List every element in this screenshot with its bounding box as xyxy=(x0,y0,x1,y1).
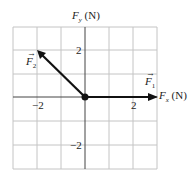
y-axis-label: Fy (N) xyxy=(72,9,100,24)
vector-arrow-icon: → xyxy=(146,68,155,78)
f2-label: F2 → xyxy=(26,55,36,70)
f1-label: F1 → xyxy=(145,75,155,90)
y-tick-neg2: −2 xyxy=(70,139,82,151)
x-tick-2: 2 xyxy=(131,99,137,111)
x-axis-label: Fx (N) xyxy=(159,89,187,104)
origin-dot xyxy=(82,94,89,101)
vector-f1 xyxy=(85,93,158,101)
vector-arrow-icon: → xyxy=(27,48,36,58)
x-tick-neg2: −2 xyxy=(32,99,44,111)
y-tick-2: 2 xyxy=(76,44,82,56)
